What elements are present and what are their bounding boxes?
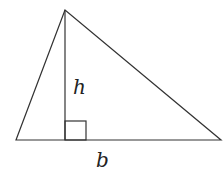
height-label: h bbox=[73, 75, 86, 99]
right-angle-marker bbox=[65, 121, 86, 140]
triangle bbox=[16, 10, 221, 140]
triangle-diagram: h b bbox=[0, 0, 223, 175]
base-label: b bbox=[96, 148, 109, 172]
